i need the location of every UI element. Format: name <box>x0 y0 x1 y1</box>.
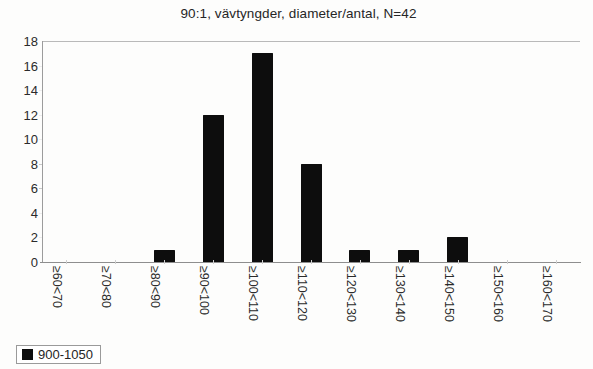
x-axis-tick-mark <box>213 260 214 264</box>
chart-title-text: 90:1, vävtyngder, diameter/antal, N=42 <box>180 6 416 21</box>
chart-bar <box>252 53 273 262</box>
x-axis-tick-mark <box>164 260 165 264</box>
x-axis-tick-label-text: ≥60<70 <box>50 266 64 308</box>
x-axis-tick-label-text: ≥90<100 <box>197 266 211 315</box>
plot-area <box>42 41 580 263</box>
y-axis-tick-mark <box>39 115 42 116</box>
y-axis-tick-label: 0 <box>4 255 38 270</box>
chart-legend: 900-1050 <box>16 345 101 364</box>
y-axis-tick-mark <box>39 139 42 140</box>
x-axis-tick-label-text: ≥150<160 <box>491 266 505 322</box>
chart-bar <box>203 115 224 262</box>
y-axis-tick-label: 16 <box>4 58 38 73</box>
y-axis-tick-mark <box>39 213 42 214</box>
x-axis-tick-mark <box>507 260 508 264</box>
x-axis-tick-mark <box>360 260 361 264</box>
y-axis-tick-label: 2 <box>4 230 38 245</box>
bars-layer <box>42 41 580 262</box>
y-axis-tick-mark <box>39 188 42 189</box>
legend-entry-label: 900-1050 <box>38 347 93 362</box>
y-axis-tick-label: 8 <box>4 156 38 171</box>
y-axis-tick-label: 18 <box>4 34 38 49</box>
y-axis-tick-label: 4 <box>4 205 38 220</box>
y-axis-tick-label: 6 <box>4 181 38 196</box>
x-axis-tick-label-text: ≥100<110 <box>246 266 260 321</box>
x-axis-tick-label-text: ≥120<130 <box>344 266 358 322</box>
x-axis-tick-mark <box>262 260 263 264</box>
x-axis-tick-mark <box>115 260 116 264</box>
x-axis-tick-mark <box>556 260 557 264</box>
x-axis-tick-mark <box>458 260 459 264</box>
x-axis-tick-label-text: ≥110<120 <box>295 266 309 321</box>
x-axis-tick-label-text: ≥140<150 <box>442 266 456 322</box>
x-axis-tick-mark <box>66 260 67 264</box>
y-axis: 024681012141618 <box>0 0 38 369</box>
y-axis-tick-mark <box>39 237 42 238</box>
y-axis-tick-mark <box>39 90 42 91</box>
x-axis-tick-mark <box>409 260 410 264</box>
x-axis: ≥60<70≥70<80≥80<90≥90<100≥100<110≥110<12… <box>42 264 580 342</box>
chart-bar <box>301 164 322 262</box>
y-axis-tick-label: 10 <box>4 132 38 147</box>
x-axis-tick-label-text: ≥160<170 <box>540 266 554 322</box>
x-axis-tick-label-text: ≥80<90 <box>148 266 162 308</box>
y-axis-tick-mark <box>39 66 42 67</box>
x-axis-tick-label-text: ≥70<80 <box>99 266 113 308</box>
chart-bar <box>447 237 468 262</box>
y-axis-tick-mark <box>39 164 42 165</box>
square-marker-icon <box>22 349 33 360</box>
x-axis-tick-label-text: ≥130<140 <box>393 266 407 322</box>
y-axis-tick-label: 14 <box>4 83 38 98</box>
chart-title: 90:1, vävtyngder, diameter/antal, N=42 <box>0 6 593 21</box>
y-axis-tick-label: 12 <box>4 107 38 122</box>
x-axis-tick-mark <box>311 260 312 264</box>
